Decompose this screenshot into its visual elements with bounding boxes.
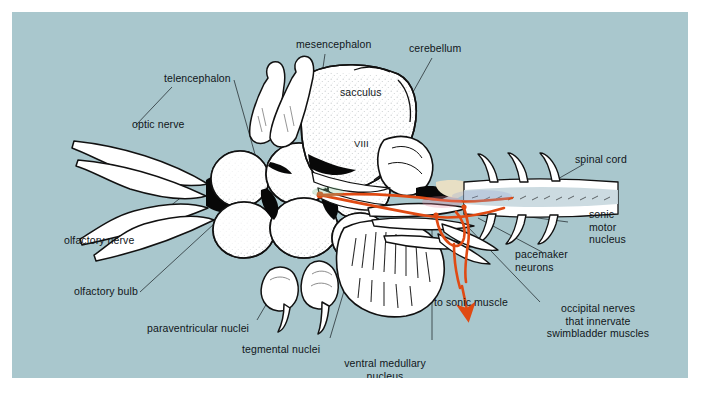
diagram-panel: mesencephalon cerebellum telencephalon s… (12, 12, 688, 378)
tegmental-and-medullary-region (337, 220, 445, 317)
dorsal-roots (478, 153, 560, 182)
label-paraventricular-nuclei: paraventricular nuclei (147, 322, 249, 335)
label-spinal-cord: spinal cord (575, 153, 627, 166)
label-sacculus: sacculus (340, 86, 382, 99)
label-olfactory-bulb: olfactory bulb (74, 285, 138, 298)
label-olfactory-nerve: olfactory nerve (64, 234, 134, 247)
label-cranial-nerve-viii: VIII (354, 138, 369, 151)
label-cerebellum: cerebellum (409, 42, 461, 55)
label-telencephalon: telencephalon (164, 72, 231, 85)
ventral-roots (476, 214, 558, 244)
figure-root: mesencephalon cerebellum telencephalon s… (0, 0, 702, 395)
label-optic-nerve: optic nerve (132, 118, 184, 131)
label-sonic-motor-nucleus: sonic motor nucleus (589, 208, 626, 246)
label-pacemaker-neurons: pacemaker neurons (515, 248, 568, 273)
label-ventral-medullary-nucleus: ventral medullary nucleus (330, 357, 440, 378)
paraventricular-nuclei (261, 261, 338, 334)
label-mesencephalon: mesencephalon (296, 38, 371, 51)
label-occipital-nerves: occipital nerves that innervate swimblad… (526, 302, 670, 340)
label-to-sonic-muscle: to sonic muscle (434, 296, 508, 309)
label-tegmental-nuclei: tegmental nuclei (242, 343, 320, 356)
